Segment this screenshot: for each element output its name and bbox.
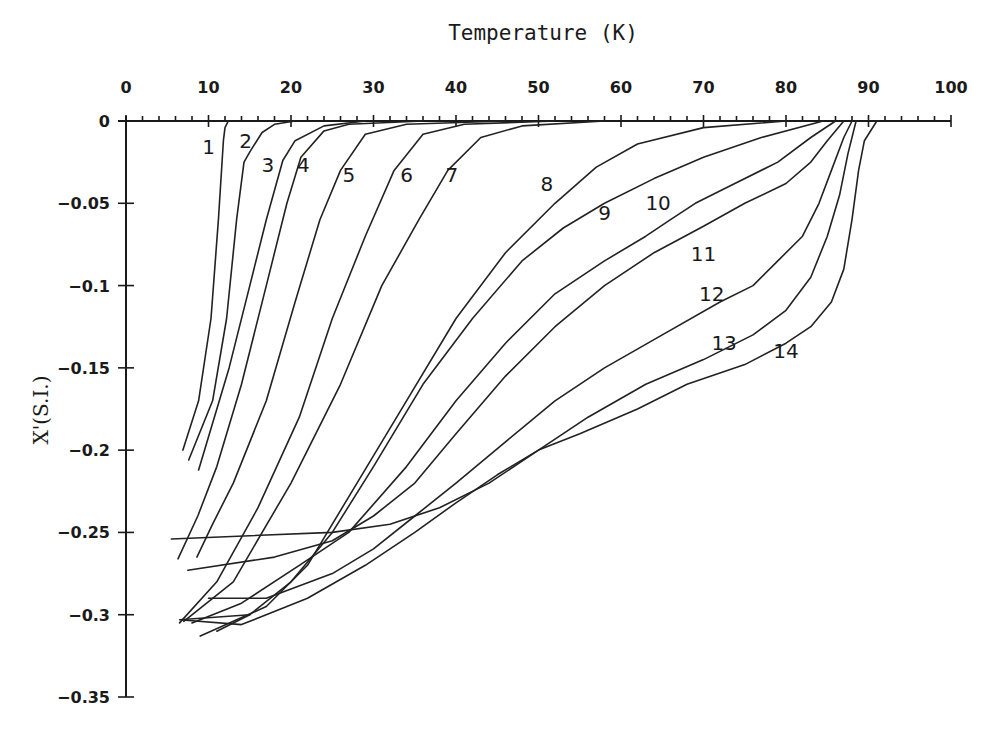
x-tick-label: 60 bbox=[610, 78, 632, 97]
curve-6 bbox=[180, 121, 555, 623]
chart-title: Temperature (K) bbox=[448, 21, 638, 45]
x-tick-labels: 0102030405060708090100 bbox=[120, 78, 967, 97]
x-tick-label: 30 bbox=[362, 78, 384, 97]
y-tick-label: −0.15 bbox=[57, 359, 110, 378]
chart: Temperature (K) X'(S.I.) 010203040506070… bbox=[0, 0, 985, 730]
curve-14 bbox=[180, 121, 877, 625]
curve-label-6: 6 bbox=[400, 163, 413, 187]
curve-label-12: 12 bbox=[699, 282, 724, 306]
curve-label-9: 9 bbox=[598, 201, 611, 225]
x-tick-label: 70 bbox=[692, 78, 714, 97]
x-tick-label: 100 bbox=[934, 78, 967, 97]
y-tick-label: −0.35 bbox=[57, 688, 110, 707]
curve-11 bbox=[188, 121, 844, 570]
curve-label-11: 11 bbox=[691, 242, 716, 266]
curve-label-2: 2 bbox=[239, 129, 252, 153]
x-tick-label: 90 bbox=[857, 78, 879, 97]
curve-label-3: 3 bbox=[262, 153, 275, 177]
y-tick-label: −0.1 bbox=[68, 277, 110, 296]
y-axis-label: X'(S.I.) bbox=[29, 376, 53, 445]
curves bbox=[171, 121, 876, 636]
curve-label-10: 10 bbox=[645, 191, 670, 215]
x-tick-label: 10 bbox=[197, 78, 219, 97]
curve-1 bbox=[183, 121, 228, 450]
curve-label-14: 14 bbox=[773, 339, 798, 363]
x-tick-label: 80 bbox=[775, 78, 797, 97]
x-tick-label: 40 bbox=[445, 78, 467, 97]
curve-label-8: 8 bbox=[540, 172, 553, 196]
y-tick-label: −0.05 bbox=[57, 194, 110, 213]
y-tick-labels: 0−0.05−0.1−0.15−0.2−0.25−0.3−0.35 bbox=[57, 112, 110, 707]
curve-9 bbox=[217, 121, 823, 631]
y-tick-label: −0.25 bbox=[57, 523, 110, 542]
y-tick-label: −0.3 bbox=[68, 606, 110, 625]
curve-label-13: 13 bbox=[711, 331, 736, 355]
curve-labels: 1234567891011121314 bbox=[202, 129, 799, 364]
x-tick-label: 20 bbox=[280, 78, 302, 97]
x-tick-label: 50 bbox=[527, 78, 549, 97]
curve-label-5: 5 bbox=[342, 163, 355, 187]
curve-label-7: 7 bbox=[446, 163, 459, 187]
y-tick-label: −0.2 bbox=[68, 441, 110, 460]
curve-label-4: 4 bbox=[297, 153, 310, 177]
axes bbox=[118, 115, 951, 697]
y-tick-label: 0 bbox=[99, 112, 110, 131]
curve-3 bbox=[199, 121, 366, 470]
curve-label-1: 1 bbox=[202, 135, 215, 159]
chart-canvas: Temperature (K) X'(S.I.) 010203040506070… bbox=[0, 0, 985, 730]
curve-13 bbox=[171, 121, 856, 539]
x-tick-label: 0 bbox=[120, 78, 131, 97]
